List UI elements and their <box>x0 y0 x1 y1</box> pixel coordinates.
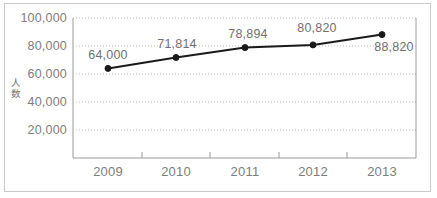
data-point-2013[interactable] <box>379 32 385 38</box>
data-point-2010[interactable] <box>173 55 179 61</box>
y-tick-labels: 100,000 80,000 60,000 40,000 20,000 <box>20 11 67 137</box>
y-tick-label-40000: 40,000 <box>28 95 67 109</box>
y-axis-title-char-2: 数 <box>11 88 21 99</box>
line-chart: 100,000 80,000 60,000 40,000 20,000 人 数 … <box>5 4 430 191</box>
data-label-2012: 80,820 <box>297 21 336 35</box>
x-tick-labels: 2009 2010 2011 2012 2013 <box>93 164 397 179</box>
x-tick-label-2010: 2010 <box>161 164 191 179</box>
data-point-2012[interactable] <box>310 42 316 48</box>
data-label-2010: 71,814 <box>157 37 196 51</box>
y-axis-title: 人 数 <box>11 77 21 99</box>
data-label-2009: 64,000 <box>88 48 127 62</box>
data-label-2011: 78,894 <box>228 27 267 41</box>
y-axis-title-char-1: 人 <box>11 77 21 88</box>
x-tick-label-2013: 2013 <box>367 164 397 179</box>
x-tickmarks <box>142 152 347 158</box>
chart-container: 100,000 80,000 60,000 40,000 20,000 人 数 … <box>0 0 437 198</box>
x-tick-label-2011: 2011 <box>231 164 260 179</box>
data-label-2013: 88,820 <box>374 40 413 54</box>
data-point-2011[interactable] <box>242 45 248 51</box>
x-tick-label-2009: 2009 <box>93 164 123 179</box>
data-point-2009[interactable] <box>105 65 111 71</box>
x-tick-label-2012: 2012 <box>298 164 328 179</box>
y-tick-label-20000: 20,000 <box>28 123 67 137</box>
data-value-labels: 64,000 71,814 78,894 80,820 88,820 <box>88 21 413 62</box>
chart-frame: 100,000 80,000 60,000 40,000 20,000 人 数 … <box>4 3 431 192</box>
y-tick-label-80000: 80,000 <box>28 39 67 53</box>
y-tick-label-60000: 60,000 <box>28 67 67 81</box>
y-tick-label-100000: 100,000 <box>20 11 67 25</box>
